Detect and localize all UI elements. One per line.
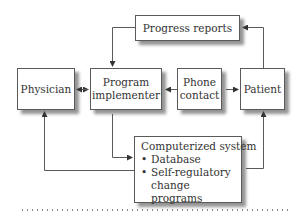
patient-box: Patient (240, 68, 285, 110)
list-item-database: Database (141, 153, 241, 166)
edge-implementer-to-computerized (113, 114, 133, 158)
program-implementer-box: Program implementer (90, 68, 162, 110)
edge-patient-to-progress (243, 28, 264, 69)
physician-label: Physician (21, 83, 72, 96)
flowchart-diagram: Progress reports Physician Program imple… (0, 0, 305, 222)
phone-contact-box: Phone contact (177, 68, 222, 110)
list-item-self-regulatory: Self-regulatory change programs (141, 166, 241, 205)
progress-reports-box: Progress reports (135, 15, 240, 41)
phone-contact-line2: contact (180, 89, 220, 102)
progress-reports-label: Progress reports (143, 22, 232, 35)
computerized-system-title: Computerized system (141, 140, 257, 153)
computerized-system-box: Computerized system Database Self-regula… (134, 136, 242, 203)
program-implementer-line1: Program (103, 76, 149, 89)
program-implementer-line2: implementer (92, 89, 160, 102)
physician-box: Physician (17, 68, 75, 110)
edge-computerized-to-physician (45, 112, 135, 171)
computerized-system-list: Database Self-regulatory change programs (141, 153, 241, 205)
patient-label: Patient (244, 83, 282, 96)
dotted-divider (20, 209, 288, 211)
edge-progress-to-implementer (113, 28, 136, 67)
phone-contact-line1: Phone (183, 76, 216, 89)
